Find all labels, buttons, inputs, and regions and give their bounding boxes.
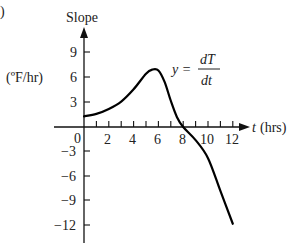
svg-text:3: 3 [70, 95, 77, 110]
x-axis-arrow-icon [239, 123, 250, 131]
x-tick-labels: 2 4 6 8 10 12 [104, 132, 239, 147]
svg-text:−3: −3 [61, 144, 76, 159]
svg-text:−6: −6 [61, 169, 76, 184]
svg-text:6: 6 [70, 70, 77, 85]
svg-text:y =: y = [170, 62, 191, 77]
svg-text:9: 9 [70, 45, 77, 60]
svg-text:−12: −12 [54, 218, 76, 233]
panel-label: ) [0, 4, 5, 20]
svg-text:6: 6 [154, 132, 161, 147]
svg-text:10: 10 [200, 132, 214, 147]
svg-text:8: 8 [179, 132, 186, 147]
y-axis-arrow-icon [80, 27, 88, 38]
x-axis-var: t [252, 120, 257, 135]
svg-text:dt: dt [201, 73, 213, 88]
equation-label: y = dT dt [170, 52, 220, 88]
x-ticks [96, 121, 232, 127]
svg-text:4: 4 [129, 132, 136, 147]
svg-text:dT: dT [200, 52, 216, 67]
svg-text:2: 2 [104, 132, 111, 147]
y-axis-title: Slope [66, 10, 98, 25]
y-ticks [84, 52, 90, 225]
svg-text:12: 12 [225, 132, 239, 147]
x-axis-units: (hrs) [260, 120, 287, 136]
y-axis-units: (ºF/hr) [6, 70, 43, 86]
slope-chart: ) Slope (ºF/hr) t (hrs) 0 2 4 6 8 10 12 … [0, 0, 295, 251]
svg-text:−9: −9 [61, 193, 76, 208]
